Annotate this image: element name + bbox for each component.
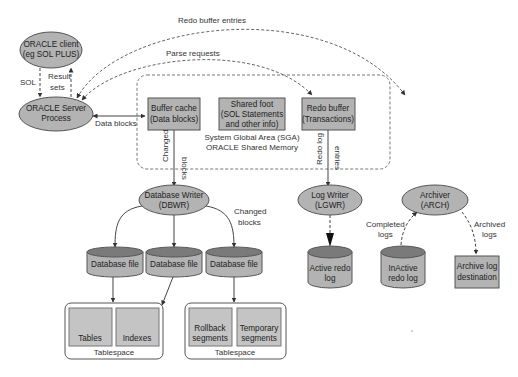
buffer-cache-line1: Buffer cache bbox=[151, 104, 197, 113]
inactive-redo-log: InActive redo log bbox=[381, 246, 425, 288]
oracle-client-line2: (eg SOL PLUS) bbox=[23, 50, 80, 59]
database-file-1-label: Database file bbox=[91, 260, 139, 269]
tablespace-1: Tables Indexes Tablespace bbox=[65, 303, 163, 359]
dbwr-node: Database Writer (DBWR) bbox=[139, 185, 209, 215]
active-redo-line1: Active redo bbox=[310, 264, 351, 273]
tablespace-1-label: Tablespace bbox=[94, 348, 135, 357]
archived-logs-arrow bbox=[462, 212, 476, 254]
parse-requests-label: Parse requests bbox=[166, 49, 220, 58]
dbwr-to-file1-arrow bbox=[115, 206, 142, 247]
lgwr-node: Log Writer (LGWR) bbox=[298, 185, 362, 215]
dbwr-line1: Database Writer bbox=[144, 191, 203, 200]
dbwr-line2: (DBWR) bbox=[159, 201, 190, 210]
sql-label: SOL bbox=[20, 78, 37, 87]
database-file-2: Database file bbox=[146, 247, 202, 277]
result-sets-line1: Result bbox=[48, 72, 71, 81]
active-redo-log: Active redo log bbox=[308, 246, 352, 288]
oracle-client-line1: ORACLE client bbox=[23, 40, 79, 49]
database-file-1: Database file bbox=[87, 247, 143, 277]
shared-pool-line3: and other info) bbox=[226, 120, 279, 129]
tables-label: Tables bbox=[78, 334, 102, 343]
redo-buffer-node: Redo buffer (Transactions) bbox=[302, 98, 355, 130]
sga-label-line2: ORACLE Shared Memory bbox=[206, 143, 298, 152]
changed-blocks-vertical-line2: blocks bbox=[180, 157, 189, 180]
oracle-server-process-node: ORACLE Server Process bbox=[19, 97, 93, 131]
oracle-client-node: ORACLE client (eg SOL PLUS) bbox=[20, 32, 82, 68]
redo-log-entries-line2: entries bbox=[333, 146, 342, 170]
redo-buffer-entries-label: Redo buffer entries bbox=[178, 16, 246, 25]
changed-blocks-right-line2: blocks bbox=[238, 218, 261, 227]
shared-pool-line1: Shared foot bbox=[231, 100, 274, 109]
archive-dest-line1: Archive log bbox=[457, 262, 498, 271]
active-redo-line2: log bbox=[325, 274, 336, 283]
database-file-3-label: Database file bbox=[210, 260, 258, 269]
lgwr-line2: (LGWR) bbox=[315, 201, 345, 210]
archived-logs-line1: Archived bbox=[474, 220, 505, 229]
database-file-2-label: Database file bbox=[150, 260, 198, 269]
data-blocks-label: Data blocks bbox=[95, 119, 137, 128]
sga-label-line1: System Global Area (SGA) bbox=[204, 133, 299, 142]
buffer-cache-node: Buffer cache (Data blocks) bbox=[148, 98, 200, 130]
shared-pool-line2: (SOL Statements bbox=[221, 110, 284, 119]
archiver-node: Archiver (ARCH) bbox=[402, 185, 468, 215]
server-process-line2: Process bbox=[41, 114, 71, 123]
archive-log-destination-node: Archive log destination bbox=[455, 256, 499, 288]
temporary-segments-line1: Temporary bbox=[240, 324, 280, 333]
inactive-redo-line2: redo log bbox=[388, 274, 418, 283]
redo-buffer-line1: Redo buffer bbox=[307, 104, 350, 113]
temporary-segments-line2: segments bbox=[241, 334, 277, 343]
completed-logs-line1: Completed bbox=[366, 220, 405, 229]
redo-buffer-line2: (Transactions) bbox=[302, 115, 354, 124]
tablespace-2-label: Tablespace bbox=[215, 348, 256, 357]
result-sets-line2: sets bbox=[50, 83, 65, 92]
archived-logs-line2: logs bbox=[482, 230, 497, 239]
file2-to-tablespace-arrow bbox=[162, 277, 173, 305]
changed-blocks-vertical-line1: Changed bbox=[161, 130, 170, 162]
indexes-label: Indexes bbox=[123, 334, 152, 343]
lgwr-line1: Log Writer bbox=[311, 191, 349, 200]
redo-log-entries-line1: Redo log bbox=[315, 133, 324, 165]
archiver-line2: (ARCH) bbox=[421, 201, 450, 210]
tablespace-2: Rollback segments Temporary segments Tab… bbox=[185, 303, 286, 359]
changed-blocks-right-line1: Changed bbox=[234, 207, 266, 216]
shared-pool-node: Shared foot (SOL Statements and other in… bbox=[219, 98, 285, 130]
stray-dot bbox=[411, 330, 413, 332]
dbwr-to-file3-arrow bbox=[206, 206, 234, 247]
server-process-line1: ORACLE Server bbox=[26, 104, 86, 113]
lgwr-arrowhead bbox=[326, 233, 334, 247]
redo-buffer-entries-arrow bbox=[77, 29, 405, 98]
inactive-redo-line1: InActive bbox=[388, 264, 418, 273]
archive-dest-line2: destination bbox=[457, 273, 497, 282]
rollback-segments-line2: segments bbox=[192, 334, 228, 343]
oracle-architecture-diagram: ORACLE client (eg SOL PLUS) ORACLE Serve… bbox=[0, 0, 518, 377]
completed-logs-line2: logs bbox=[378, 230, 393, 239]
database-file-3: Database file bbox=[206, 247, 262, 277]
buffer-cache-line2: (Data blocks) bbox=[150, 115, 199, 124]
archiver-line1: Archiver bbox=[420, 191, 450, 200]
rollback-segments-line1: Rollback bbox=[194, 324, 226, 333]
parse-requests-arrow bbox=[82, 60, 312, 100]
